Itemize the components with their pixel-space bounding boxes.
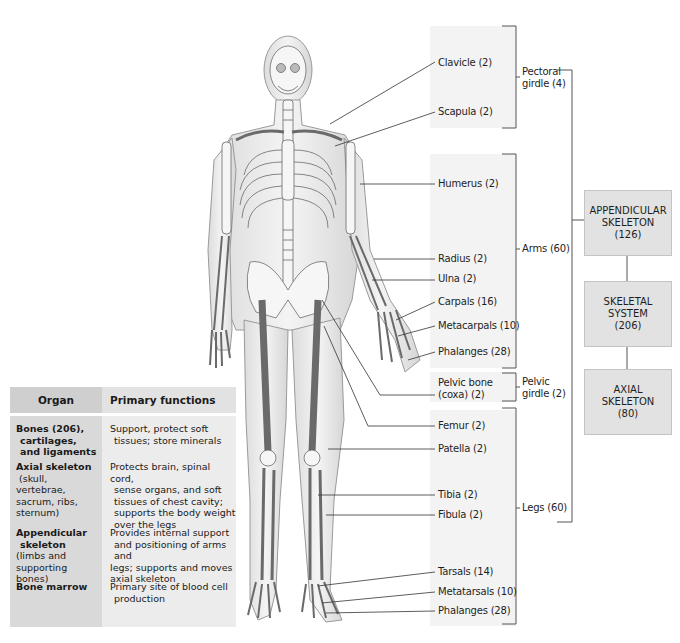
leader-lines (318, 62, 435, 613)
function-line: Protects brain, spinal cord, (110, 461, 236, 484)
label-femur: Femur (2) (438, 420, 485, 432)
label-metatarsals: Metatarsals (10) (438, 586, 517, 598)
axial-skeleton-box: AXIAL SKELETON (80) (584, 369, 672, 435)
skeletal-system-box: SKELETAL SYSTEM (206) (584, 281, 672, 347)
organ-detail: (limbs and (16, 550, 102, 562)
organ-name: Bones (206), (16, 423, 102, 435)
group-pectoral-girdle: Pectoral girdle (4) (522, 66, 566, 90)
group-pelvic-line1: Pelvic (522, 376, 566, 388)
label-scapula: Scapula (2) (438, 106, 493, 118)
header-organ: Organ (10, 387, 102, 413)
organ-name: Bone marrow (16, 581, 102, 593)
function-cell: Primary site of blood cell production (110, 581, 236, 604)
function-line: and positioning of arms and (110, 539, 236, 562)
organ-detail: sternum) (16, 507, 102, 519)
function-cell: Provides internal support and positionin… (110, 527, 236, 585)
function-line: legs; supports and moves (110, 562, 236, 574)
label-foot-phalanges: Phalanges (28) (438, 605, 510, 617)
body-silhouette (208, 36, 420, 622)
axial-skeleton-label: AXIAL SKELETON (80) (602, 384, 655, 420)
organ-name: Appendicular (16, 527, 102, 539)
label-tibia: Tibia (2) (438, 489, 477, 501)
label-patella: Patella (2) (438, 443, 487, 455)
function-line: tissues of chest cavity; (110, 496, 236, 508)
function-line: Provides internal support (110, 527, 236, 539)
label-carpals: Carpals (16) (438, 296, 497, 308)
header-primary-functions: Primary functions (102, 387, 236, 413)
group-pectoral-line1: Pectoral (522, 66, 566, 78)
organ-name: cartilages, (16, 435, 102, 447)
organ-detail: sacrum, ribs, (16, 496, 102, 508)
header-separator (10, 413, 236, 416)
function-line: sense organs, and soft (110, 484, 236, 496)
appendicular-skeleton-label: APPENDICULAR SKELETON (126) (589, 205, 666, 241)
organ-detail: (skull, (16, 473, 102, 485)
label-fibula: Fibula (2) (438, 509, 483, 521)
function-line: Primary site of blood cell (110, 581, 236, 593)
label-radius: Radius (2) (438, 253, 487, 265)
organ-cell: Axial skeleton (skull, vertebrae, sacrum… (16, 461, 102, 519)
group-pelvic-girdle: Pelvic girdle (2) (522, 376, 566, 400)
label-pelvic-bone: Pelvic bone (438, 377, 493, 389)
label-ulna: Ulna (2) (438, 273, 476, 285)
group-pectoral-line2: girdle (4) (522, 78, 566, 90)
skeletal-system-label: SKELETAL SYSTEM (206) (604, 296, 653, 332)
organ-cell: Bone marrow (16, 581, 102, 593)
function-cell: Support, protect soft tissues; store min… (110, 423, 236, 446)
label-hand-phalanges: Phalanges (28) (438, 346, 510, 358)
organ-detail: vertebrae, (16, 484, 102, 496)
skeleton-bones (210, 46, 410, 618)
group-pelvic-line2: girdle (2) (522, 388, 566, 400)
organ-cell: Appendicular skeleton (limbs and support… (16, 527, 102, 585)
appendicular-skeleton-box: APPENDICULAR SKELETON (126) (584, 190, 672, 256)
function-line: tissues; store minerals (110, 435, 236, 447)
label-tarsals: Tarsals (14) (438, 566, 493, 578)
organ-functions-table: Organ Primary functions Bones (206), car… (10, 387, 236, 627)
group-arms: Arms (60) (522, 243, 570, 255)
label-humerus: Humerus (2) (438, 178, 499, 190)
function-cell: Protects brain, spinal cord, sense organ… (110, 461, 236, 530)
organ-name: and ligaments (16, 446, 102, 458)
organ-cell: Bones (206), cartilages, and ligaments (16, 423, 102, 458)
function-line: production (110, 593, 236, 605)
function-line: supports the body weight (110, 507, 236, 519)
organ-name: skeleton (16, 539, 102, 551)
label-pelvic-bone-coxa: (coxa) (2) (438, 389, 485, 401)
organ-name: Axial skeleton (16, 461, 102, 473)
group-legs: Legs (60) (522, 502, 567, 514)
label-clavicle: Clavicle (2) (438, 57, 492, 69)
function-line: Support, protect soft (110, 423, 236, 435)
label-metacarpals: Metacarpals (10) (438, 320, 520, 332)
